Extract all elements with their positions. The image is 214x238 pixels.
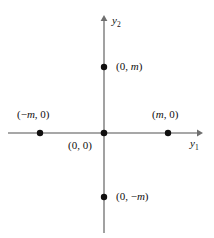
point-label-0-m-suffix: ) bbox=[139, 60, 143, 72]
point-label-0-neg-m-prefix: (0, − bbox=[116, 190, 137, 202]
point-marker-m-0 bbox=[165, 130, 171, 136]
point-marker-0-neg-m bbox=[101, 194, 107, 200]
coordinate-plane-figure: y2 y1 (0, m) (−m, 0) (m, 0) (0, 0) (0, −… bbox=[0, 0, 214, 238]
point-label-0-m: (0, m) bbox=[116, 61, 142, 72]
horizontal-axis-label-subscript: 1 bbox=[195, 143, 199, 152]
point-label-0-m-prefix: (0, bbox=[116, 60, 131, 72]
vertical-axis-arrow-icon bbox=[101, 15, 108, 21]
point-label-neg-m-0: (−m, 0) bbox=[17, 109, 50, 120]
point-label-0-neg-m: (0, −m) bbox=[116, 191, 149, 202]
point-label-0-neg-m-variable: m bbox=[137, 190, 145, 202]
point-label-0-m-variable: m bbox=[131, 60, 139, 72]
vertical-axis-label: y2 bbox=[112, 15, 121, 26]
point-label-0-neg-m-suffix: ) bbox=[145, 190, 149, 202]
point-label-neg-m-0-suffix: , 0) bbox=[35, 108, 50, 120]
point-label-origin: (0, 0) bbox=[68, 140, 92, 151]
vertical-axis-label-subscript: 2 bbox=[117, 20, 121, 29]
point-label-m-0: (m, 0) bbox=[152, 109, 178, 120]
point-marker-0-m bbox=[101, 64, 107, 70]
horizontal-axis-label: y1 bbox=[190, 138, 199, 149]
point-marker-neg-m-0 bbox=[37, 130, 43, 136]
point-label-m-0-suffix: , 0) bbox=[164, 108, 179, 120]
point-marker-origin bbox=[101, 130, 108, 137]
point-label-m-0-variable: m bbox=[156, 108, 164, 120]
horizontal-axis-arrow-icon bbox=[197, 130, 203, 137]
point-label-neg-m-0-prefix: (− bbox=[17, 108, 27, 120]
point-label-neg-m-0-variable: m bbox=[27, 108, 35, 120]
